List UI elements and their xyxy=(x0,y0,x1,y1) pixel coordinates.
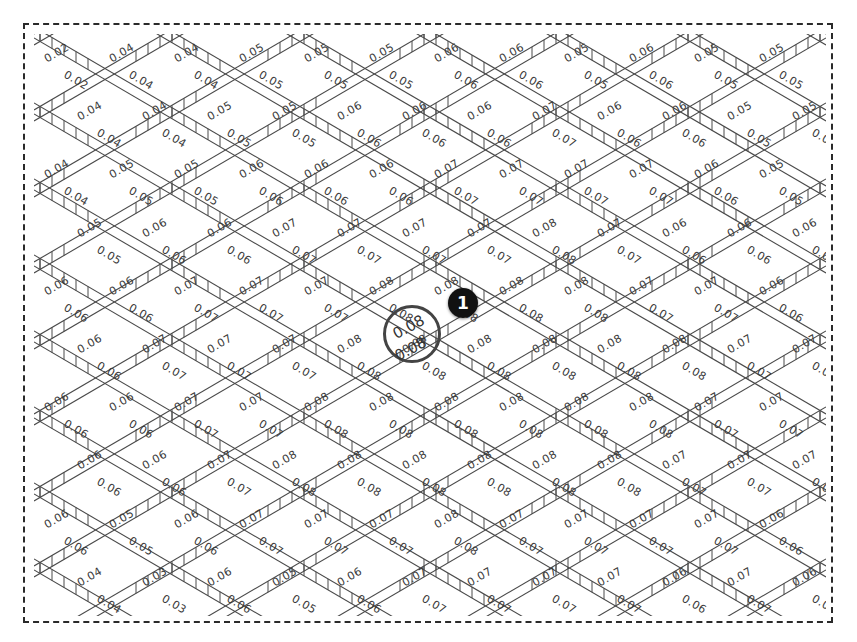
callout-number-badge[interactable]: 1 xyxy=(448,288,478,318)
